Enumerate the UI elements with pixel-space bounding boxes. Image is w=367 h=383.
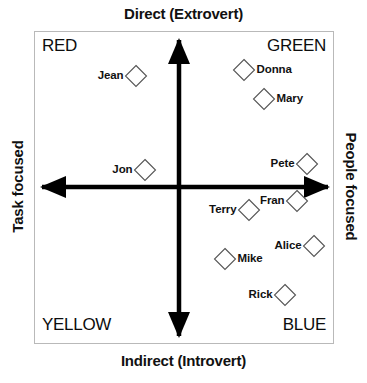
point-label: Terry [0, 203, 237, 215]
point-label: Jean [0, 69, 124, 81]
point-label: Pete [0, 157, 295, 169]
quadrant-label-blue: BLUE [254, 315, 326, 335]
axis-title-bottom: Indirect (Introvert) [0, 352, 367, 369]
point-label: Donna [257, 63, 292, 75]
axis-title-top: Direct (Extrovert) [0, 5, 367, 22]
point-label: Mike [238, 252, 263, 264]
quadrant-label-green: GREEN [246, 36, 326, 56]
quadrant-label-yellow: YELLOW [42, 315, 111, 335]
point-label: Alice [0, 239, 302, 251]
axis-title-right: People focused [343, 107, 360, 267]
point-label: Mary [277, 92, 303, 104]
quadrant-label-red: RED [42, 36, 77, 56]
quadrant-chart: Direct (Extrovert) Indirect (Introvert) … [0, 0, 367, 383]
point-label: Rick [0, 288, 273, 300]
